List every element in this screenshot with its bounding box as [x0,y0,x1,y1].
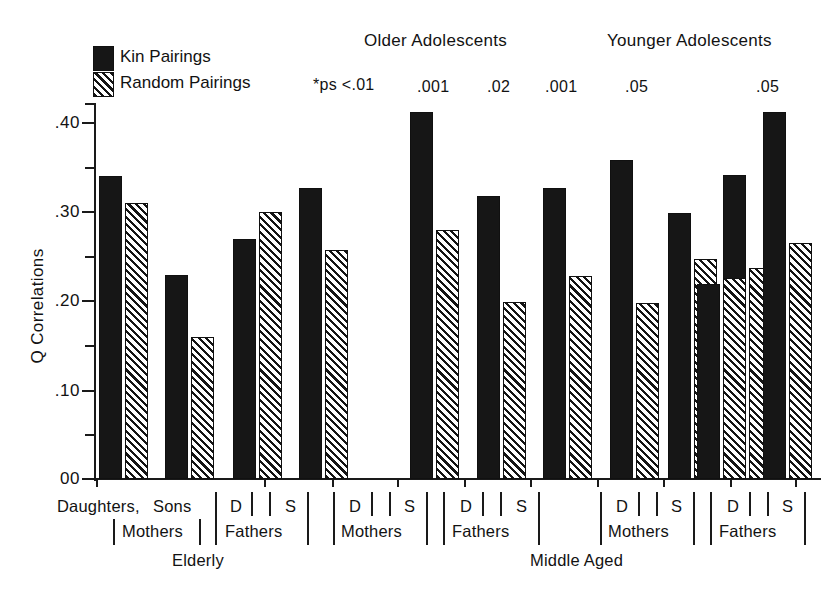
xlabel-rule-g2-f [426,519,428,545]
xlabel-g3-fathers: Fathers [719,522,776,541]
xlabel-rule-g2-h [482,492,484,516]
xlabel-rule-g1-g [215,519,217,545]
x-group-tick-4 [397,479,399,487]
chart-figure: Kin Pairings Random Pairings Older Adole… [0,0,821,592]
y-tick-30 [82,211,94,213]
xlabel-rule-g3-g [710,492,712,519]
y-tick-10 [82,390,94,392]
xlabel-rule-g2-l [538,519,540,545]
xlabel-rule-g2-g [443,492,445,519]
y-tick-minor-045 [85,103,94,105]
xlabel-rule-g1-h [307,519,309,545]
y-tick-label-00: 00 [60,469,80,489]
x-group-tick-9 [730,479,732,487]
xlabel-rule-g1-b [199,519,201,545]
legend-label-random: Random Pairings [120,73,250,93]
y-tick-minor-035 [85,167,94,169]
xlabel-g2-d2: D [460,497,472,516]
legend-swatch-kin [93,46,114,71]
pvalue-annotation-3: .02 [487,78,510,96]
xlabel-g1-s: S [285,497,296,516]
xlabel-g1-daughters: Daughters, [57,497,140,516]
y-tick-label-20: .20 [55,291,80,311]
y-tick-label-30: .30 [55,202,80,222]
xlabel-rule-g1-a [113,519,115,545]
x-group-tick-2 [264,479,266,487]
xlabel-rule-g3-l [804,519,806,545]
xlabel-g2-s1: S [404,497,415,516]
y-tick-20 [82,300,94,302]
xlabel-rule-g1-d [251,492,253,516]
xlabel-rule-g2-k [443,519,445,545]
xlabel-rule-g2-i [500,492,502,516]
bar-random-10[interactable] [723,278,746,479]
xlabel-g1-fathers: Fathers [225,522,282,541]
xlabel-rule-g2-e [333,519,335,545]
y-axis-title: Q Correlations [28,206,48,406]
x-group-tick-1 [96,479,98,487]
bar-random-11[interactable] [789,243,812,479]
xlabel-g2-mothers: Mothers [341,522,402,541]
xlabel-rule-g2-a [333,492,335,519]
xlabel-rule-g3-h [749,492,751,516]
group-header-older-adolescents: Older Adolescents [364,31,507,51]
xlabel-g2-fathers: Fathers [452,522,509,541]
xlabel-g2-d1: D [349,497,361,516]
x-group-tick-6 [530,479,532,487]
y-tick-minor-005 [85,434,94,436]
y-tick-40 [82,122,94,124]
xlabel-g1-d: D [230,497,242,516]
x-group-tick-3 [332,479,334,487]
x-group-tick-7 [597,479,599,487]
xlabel-g3-s1: S [671,497,682,516]
pvalue-annotation-4: .001 [545,78,577,96]
xlabel-rule-g1-f [307,492,309,519]
xlabel-rule-g3-b [638,492,640,516]
xlabel-g2-s2: S [516,497,527,516]
bar-kin-10[interactable] [697,284,720,479]
pvalue-annotation-6: .05 [756,78,779,96]
xlabel-rule-g1-c [215,492,217,519]
y-tick-minor-015 [85,345,94,347]
xlabel-g1-sons: Sons [153,497,191,516]
xlabel-rule-g3-d [693,492,695,519]
x-group-tick-10 [795,479,797,487]
xlabel-rule-g3-a [600,492,602,519]
xlabel-g3-d1: D [616,497,628,516]
xlabel-rule-g2-d [426,492,428,519]
pvalue-annotation-1: *ps <.01 [313,76,375,94]
xlabel-rule-g1-e [269,492,271,516]
xlabel-rule-g3-e [600,519,602,545]
pvalue-annotation-5: .05 [625,78,648,96]
x-group-tick-5 [464,479,466,487]
xlabel-rule-g2-c [389,492,391,516]
xlabel-g3-mothers: Mothers [608,522,669,541]
y-tick-00 [82,478,94,480]
y-tick-label-40: .40 [55,113,80,133]
group-header-younger-adolescents: Younger Adolescents [607,31,772,51]
xlabel-g2-group: Middle Aged [530,551,623,570]
pvalue-annotation-2: .001 [417,78,449,96]
xlabel-g1-mothers: Mothers [122,522,183,541]
xlabel-g3-s2: S [782,497,793,516]
legend-swatch-random [93,72,114,97]
legend-label-kin: Kin Pairings [120,47,211,67]
xlabel-rule-g2-b [371,492,373,516]
x-group-tick-8 [663,479,665,487]
xlabel-g3-d2: D [727,497,739,516]
xlabel-rule-g3-j [804,492,806,519]
xlabel-rule-g3-k [710,519,712,545]
xlabel-rule-g3-c [656,492,658,516]
xlabel-rule-g2-j [538,492,540,519]
xlabel-g1-group: Elderly [172,551,224,570]
y-tick-label-10: .10 [55,381,80,401]
bars-area-younger [95,122,821,479]
bar-kin-11[interactable] [763,112,786,479]
y-tick-minor-025 [85,256,94,258]
xlabel-rule-g3-i [767,492,769,516]
xlabel-rule-g3-f [693,519,695,545]
